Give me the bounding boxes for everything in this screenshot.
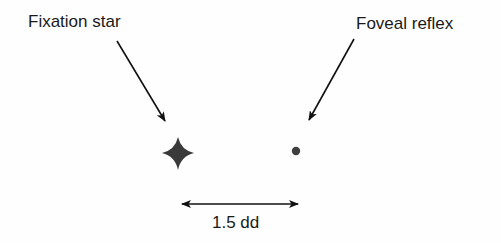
- diagram-canvas: Fixation star Foveal reflex 1.5 dd: [0, 0, 501, 243]
- foveal-arrow-icon: [309, 39, 354, 120]
- fixation-arrow-icon: [117, 41, 165, 121]
- foveal-dot-icon: [292, 147, 300, 155]
- diagram-graphics: [0, 0, 501, 243]
- star-icon: [162, 137, 194, 170]
